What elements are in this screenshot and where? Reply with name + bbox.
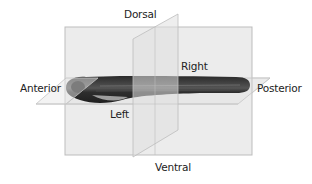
anatomical-planes-diagram: Dorsal Right Anterior Posterior Left Ven… — [0, 0, 312, 184]
label-left: Left — [110, 108, 129, 120]
label-anterior: Anterior — [20, 82, 61, 94]
label-dorsal: Dorsal — [124, 8, 156, 20]
label-posterior: Posterior — [257, 82, 302, 94]
label-ventral: Ventral — [155, 161, 191, 173]
label-right: Right — [181, 60, 208, 72]
